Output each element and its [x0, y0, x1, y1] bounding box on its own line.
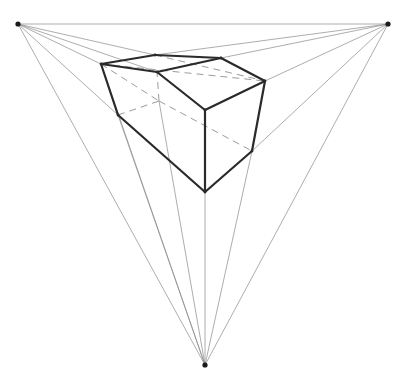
- construction-lines: [18, 24, 388, 365]
- vanishing-point-bottom: [202, 362, 207, 367]
- construction-line: [18, 24, 157, 72]
- vertex-front-top: [204, 109, 207, 112]
- box-edge: [101, 55, 155, 64]
- box-edge: [205, 151, 252, 192]
- construction-line: [155, 24, 388, 55]
- hidden-edge: [157, 72, 159, 101]
- construction-line: [18, 24, 205, 365]
- vertex-ridge-front: [156, 71, 159, 74]
- vanishing-point-left: [15, 21, 20, 26]
- construction-line: [159, 101, 205, 365]
- vertex-top-back: [154, 54, 157, 57]
- construction-line: [18, 24, 101, 64]
- box-edge: [157, 58, 221, 72]
- construction-line: [205, 24, 388, 365]
- box-edge: [221, 58, 265, 81]
- box-edge: [101, 64, 157, 72]
- vertex-front-bottom: [204, 191, 207, 194]
- vertex-right-top: [264, 80, 267, 83]
- construction-line: [265, 24, 388, 81]
- box-edge: [155, 55, 221, 58]
- perspective-diagram: [0, 0, 397, 383]
- vertex-right-bottom: [251, 150, 254, 153]
- hidden-edge: [118, 101, 159, 115]
- construction-line: [18, 24, 155, 55]
- vanishing-points: [15, 21, 390, 367]
- vanishing-point-right: [385, 21, 390, 26]
- construction-line: [221, 24, 388, 58]
- vertex-top-left: [100, 63, 103, 66]
- construction-line: [205, 151, 252, 365]
- construction-line: [252, 24, 388, 151]
- vertex-left-bottom: [117, 114, 120, 117]
- box-edge: [205, 81, 265, 110]
- vertex-top-right-back: [220, 57, 223, 60]
